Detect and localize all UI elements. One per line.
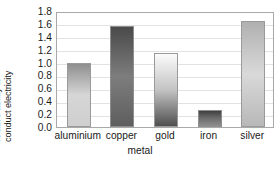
- y-tick-label: 1.2: [38, 46, 52, 56]
- y-axis-tick-labels: 0.00.20.40.60.81.01.21.41.61.8: [26, 12, 52, 128]
- x-tick-label-silver: silver: [240, 130, 264, 142]
- bar-silver: [241, 21, 265, 127]
- x-tickmark: [231, 127, 232, 128]
- y-tick-label: 1.0: [38, 59, 52, 69]
- x-axis-title: metal: [0, 145, 280, 157]
- x-tickmark: [101, 127, 102, 128]
- y-tick-label: 1.4: [38, 33, 52, 43]
- y-tick-label: 0.0: [38, 123, 52, 133]
- x-tick-label-iron: iron: [200, 130, 217, 142]
- x-tick-label-gold: gold: [155, 130, 174, 142]
- y-axis-title-line-2: conduct electricity: [3, 71, 13, 142]
- y-axis-title-line-1: relative ability to: [0, 78, 2, 142]
- x-axis-tick-labels: aluminiumcoppergoldironsilver: [56, 130, 274, 146]
- plot-area: [56, 12, 274, 128]
- y-tick-label: 0.6: [38, 84, 52, 94]
- bar-iron: [198, 110, 222, 127]
- y-tick-label: 0.8: [38, 71, 52, 81]
- x-tick-label-copper: copper: [106, 130, 137, 142]
- y-tick-label: 1.8: [38, 7, 52, 17]
- x-tickmark: [188, 127, 189, 128]
- bar-copper: [110, 26, 134, 127]
- y-tick-label: 1.6: [38, 20, 52, 30]
- y-tick-label: 0.4: [38, 97, 52, 107]
- x-tick-label-aluminium: aluminium: [55, 130, 101, 142]
- x-tickmark: [144, 127, 145, 128]
- x-tickmark: [57, 127, 58, 128]
- bar-chart: relative ability to conduct electricity …: [0, 0, 280, 176]
- y-tick-label: 0.2: [38, 110, 52, 120]
- bar-gold: [154, 53, 178, 127]
- bar-series: [57, 13, 273, 127]
- bar-aluminium: [67, 63, 91, 127]
